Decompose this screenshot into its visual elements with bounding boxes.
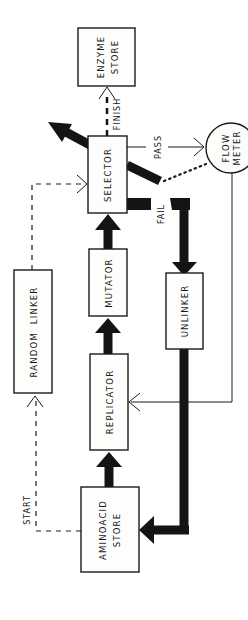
edge-aminoacid-replicator — [96, 452, 122, 487]
node-selector[interactable]: SELECTOR — [88, 136, 127, 213]
node-enzyme-store[interactable]: ENZYME STORE — [78, 28, 135, 86]
edge-unlinker-recycle — [139, 349, 189, 544]
node-mutator[interactable]: MUTATOR — [89, 249, 127, 316]
flow-meter-label-line2: METER — [232, 130, 242, 165]
edge-flow-sense — [127, 164, 206, 181]
node-flow-meter[interactable]: FLOW METER — [206, 123, 248, 173]
edge-mutator-selector — [95, 214, 121, 249]
selector-label: SELECTOR — [103, 148, 113, 202]
enzyme-store-label-line1: ENZYME — [96, 36, 106, 79]
flow-meter-label-line1: FLOW — [221, 133, 231, 162]
node-replicator[interactable]: REPLICATOR — [90, 354, 128, 450]
mutator-label: MUTATOR — [104, 258, 114, 307]
edge-label-start: START — [23, 495, 32, 525]
edge-label-pass: PASS — [154, 135, 163, 159]
node-unlinker[interactable]: UNLINKER — [166, 273, 203, 349]
edge-pass — [127, 138, 204, 156]
node-aminoacid-store[interactable]: AMINOACID STORE — [81, 487, 139, 572]
edge-label-fail: FAIL — [157, 204, 166, 224]
flow-diagram: ENZYME STORE SELECTOR FLOW METER MUTATOR… — [0, 0, 248, 620]
edge-label-finish: FINISH — [113, 98, 122, 130]
node-random-linker[interactable]: RANDOM LINKER — [14, 270, 52, 393]
edge-random-linker-selector — [32, 175, 87, 270]
replicator-label: REPLICATOR — [105, 370, 115, 435]
aminoacid-store-label-line1: AMINOACID — [98, 500, 108, 560]
enzyme-store-label-line2: STORE — [110, 40, 120, 75]
edge-replicator-mutator — [95, 318, 121, 354]
edge-selector-output — [48, 122, 90, 145]
edge-start — [27, 396, 81, 531]
unlinker-label: UNLINKER — [180, 285, 190, 338]
aminoacid-store-label-line2: STORE — [112, 513, 122, 548]
random-linker-label: RANDOM LINKER — [29, 287, 39, 378]
